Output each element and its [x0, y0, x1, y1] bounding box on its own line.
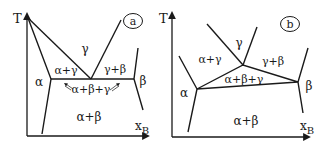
- region-alpha-gamma-b: α+γ: [198, 53, 222, 66]
- panel-b: T xB b γ α+γ γ+β α+β+γ α β α+β: [159, 11, 314, 137]
- phase-diagram-figure: T xB a γ α+γ γ+β α β α+β+γ α+β T xB b γ …: [0, 0, 329, 150]
- region-alpha-a: α: [35, 75, 43, 89]
- region-alpha-gamma-a: α+γ: [54, 64, 78, 77]
- t-axis-label-a: T: [13, 11, 22, 26]
- x-axis-label-a: xB: [135, 119, 149, 136]
- region-gamma-a: γ: [81, 42, 88, 56]
- region-alpha-beta-a: α+β: [76, 110, 101, 124]
- region-alpha-beta-b: α+β: [233, 114, 258, 128]
- panel-a: T xB a γ α+γ γ+β α β α+β+γ α+β: [13, 11, 149, 136]
- reaction-arrow-right-a: [110, 83, 120, 91]
- region-alpha-b: α: [180, 86, 188, 100]
- region-alpha-beta-gamma-a: α+β+γ: [72, 83, 111, 96]
- region-gamma-beta-b: γ+β: [262, 55, 284, 68]
- panel-badge-text-b: b: [286, 18, 293, 31]
- panel-badge-text-a: a: [130, 15, 137, 28]
- region-gamma-b: γ: [235, 36, 242, 50]
- t-axis-label-b: T: [159, 11, 168, 26]
- gamma-right-boundary-b: [243, 27, 257, 65]
- x-axis-label-b: xB: [300, 119, 314, 136]
- region-beta-a: β: [140, 74, 147, 88]
- region-alpha-beta-gamma-b: α+β+γ: [225, 73, 264, 86]
- region-gamma-beta-a: γ+β: [104, 63, 126, 76]
- region-beta-b: β: [306, 79, 313, 93]
